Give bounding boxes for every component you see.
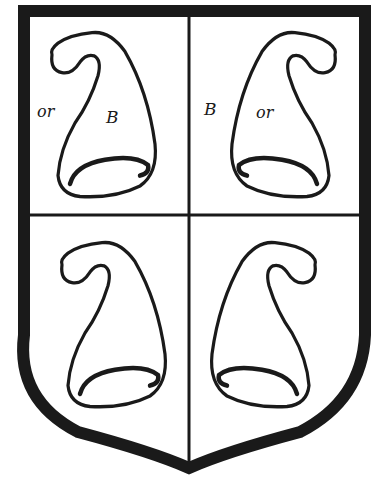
tincture-label-field: or (37, 102, 56, 121)
tincture-label-charge: or (256, 103, 275, 122)
tincture-label-charge: B (105, 107, 119, 127)
coat-of-arms: or B B or (0, 0, 383, 493)
tincture-label-field: B (203, 99, 217, 119)
